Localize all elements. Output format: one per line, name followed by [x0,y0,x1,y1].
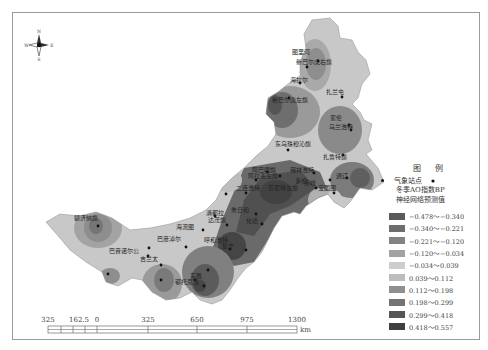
station-marker [202,229,205,232]
station-label: 乌兰浩特 [329,123,353,130]
legend-station-entry: 气象站点 [372,175,480,185]
station-marker [160,264,163,267]
station-marker [185,246,188,249]
legend-class-row: −0.120～−0.034 [389,247,480,259]
station-label: 宝国图 [318,184,336,191]
station-marker [97,225,100,228]
station-marker [226,224,229,227]
legend-swatch [389,213,405,220]
legend-range: −0.340～−0.221 [409,223,464,233]
legend-swatch [389,323,405,330]
legend-swatch [389,311,405,318]
legend-subtitle-2: 神经网络预测值 [396,195,480,205]
legend-class-row: 0.198～0.299 [389,296,480,308]
station-marker [333,192,336,195]
station-marker [160,279,163,282]
north-arrow: N S E W [24,28,54,62]
legend-class-row: −0.478～−0.340 [389,210,480,222]
station-label: 锡林浩特 [290,166,314,173]
station-marker [107,273,110,276]
scale-label: 325 [41,316,54,324]
station-dot-icon [381,179,384,182]
scale-label: 325 [141,316,154,324]
station-marker [245,192,248,195]
station-marker [255,179,258,182]
station-marker [203,285,206,288]
station-marker [279,175,282,178]
scale-unit: km [300,326,311,334]
legend-swatch [389,237,405,244]
legend-range: −0.120～−0.034 [409,248,464,258]
legend-swatch [389,250,405,257]
station-label: 巴彦淖尔 [157,235,181,242]
legend-range: 0.299～0.418 [409,310,453,320]
legend-range: 0.039～0.112 [409,273,453,283]
scale-bar: 325 162.5 0 325 650 975 1300 km [45,316,305,338]
station-label: 扎鲁特旗 [323,153,347,160]
station-label: 苏尼特左旗 [268,184,298,191]
svg-text:E: E [50,43,53,48]
legend-subtitle-1: 冬季AO指数BP [396,185,480,195]
map-legend: 图 例 气象站点 冬季AO指数BP 神经网络预测值 −0.478～−0.340−… [372,162,480,333]
legend-range: −0.221～−0.120 [409,236,464,246]
station-marker [245,249,248,252]
legend-class-row: −0.034～0.039 [389,259,480,271]
legend-swatch [389,262,405,269]
scale-label: 0 [95,316,99,324]
scale-label: 975 [240,316,253,324]
station-label: 鄂托克旗 [175,278,199,285]
station-label: 通辽 [336,172,348,179]
station-marker [255,213,258,216]
legend-station-label: 气象站点 [394,175,422,185]
legend-class-row: 0.112～0.198 [389,284,480,296]
station-label: 索伦 [330,114,342,121]
legend-class-row: 0.418～0.557 [389,321,480,333]
station-marker [306,66,309,69]
legend-class-row: 0.039～0.112 [389,271,480,283]
scale-label: 162.5 [69,316,89,324]
station-label: 额济纳旗 [74,214,98,221]
legend-swatch [389,299,405,306]
station-label: 多伦 [295,177,307,184]
station-label: 巴音诺尔公 [109,247,139,254]
legend-range: 0.112～0.198 [409,285,453,295]
station-label: 二连浩特 [236,184,260,191]
scale-label: 650 [190,316,203,324]
station-label: 化德 [246,217,258,224]
legend-swatch [389,274,405,281]
scale-label: 1300 [288,316,306,324]
station-marker [261,223,264,226]
station-label: 新巴尔虎右旗 [296,58,332,65]
legend-classes: −0.478～−0.340−0.340～−0.221−0.221～−0.120−… [372,210,480,333]
legend-title: 图 例 [382,162,480,173]
station-marker [225,193,228,196]
station-label: 达茂旗 [208,216,226,223]
svg-text:S: S [37,57,40,62]
station-label: 海拉尔 [290,76,308,83]
station-label: 东乌珠穆沁旗 [275,140,311,147]
legend-class-row: −0.340～−0.221 [389,222,480,234]
svg-text:W: W [24,43,29,48]
station-label: 吉兰太 [140,255,158,262]
station-label: 集宁 [222,242,234,249]
station-label: 海流图 [176,223,194,230]
legend-range: 0.198～0.299 [409,297,453,307]
station-label: 阿拉善左旗 [248,172,278,179]
station-marker [315,187,318,190]
station-label: 新巴尔虎左旗 [272,96,308,103]
station-marker [341,96,344,99]
legend-range: −0.478～−0.340 [409,211,464,221]
legend-class-row: −0.221～−0.120 [389,235,480,247]
station-marker [148,247,151,250]
legend-swatch [389,286,405,293]
legend-range: −0.034～0.039 [409,260,459,270]
compass-icon: N S E W [24,28,54,62]
legend-class-row: 0.299～0.418 [389,308,480,320]
station-marker [329,179,332,182]
legend-range: 0.418～0.557 [409,322,453,332]
legend-swatch [389,225,405,232]
station-marker [287,149,290,152]
station-marker [207,269,210,272]
station-label: 图里河 [292,48,310,55]
svg-text:N: N [37,29,41,34]
